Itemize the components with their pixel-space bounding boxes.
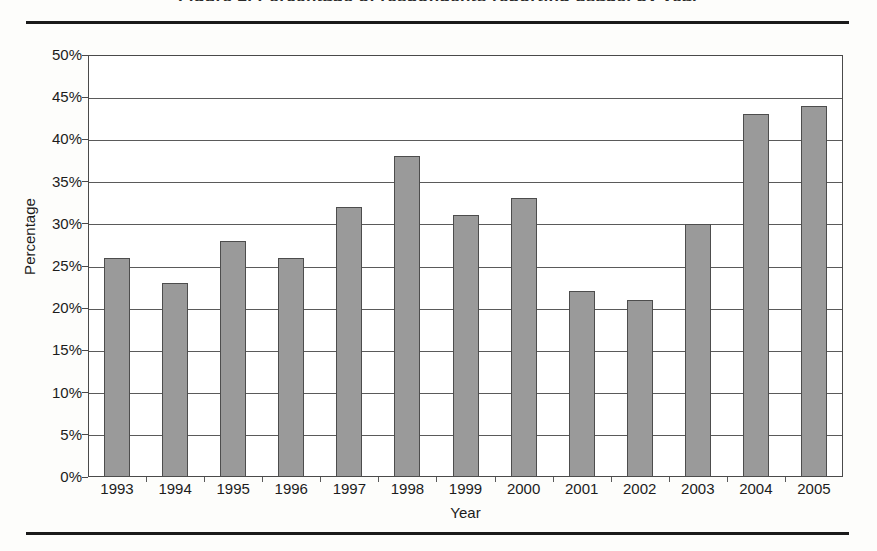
bar: [743, 114, 769, 477]
y-axis-tick-mark: [82, 350, 88, 351]
x-axis-tick-label: 1994: [145, 480, 205, 498]
bar: [394, 156, 420, 477]
x-axis-tick-mark: [378, 477, 379, 482]
x-axis-tick-mark: [553, 477, 554, 482]
bar: [685, 224, 711, 477]
x-axis-tick-mark: [727, 477, 728, 482]
x-axis-tick-mark: [320, 477, 321, 482]
y-axis-tick-label: 25%: [38, 258, 82, 273]
x-axis-tick-label: 1993: [87, 480, 147, 498]
x-axis-tick-mark: [495, 477, 496, 482]
bar: [627, 300, 653, 477]
x-axis-title: Year: [88, 504, 843, 521]
x-axis-tick-label: 1999: [436, 480, 496, 498]
x-axis-tick-mark: [146, 477, 147, 482]
bar: [104, 258, 130, 477]
y-axis-tick-mark: [82, 434, 88, 435]
x-axis-tick-label: 2002: [610, 480, 670, 498]
bar: [278, 258, 304, 477]
y-axis-tick-label: 35%: [38, 174, 82, 189]
bar-chart-figure: 0%5%10%15%20%25%30%35%40%45%50% Percenta…: [0, 28, 877, 528]
x-axis-tick-label: 2003: [668, 480, 728, 498]
clipped-page-heading: Figure 2. Percentage of respondents repo…: [0, 0, 877, 1]
y-axis-tick-mark: [82, 55, 88, 56]
y-axis-title: Percentage: [21, 182, 38, 292]
x-axis-tick-label: 1997: [319, 480, 379, 498]
bar: [569, 291, 595, 477]
x-axis-tick-label: 2004: [726, 480, 786, 498]
y-axis-tick-label: 30%: [38, 216, 82, 231]
x-axis-tick-mark: [262, 477, 263, 482]
y-axis-tick-mark: [82, 477, 88, 478]
x-axis: 1993199419951996199719981999200020012002…: [88, 480, 843, 502]
y-axis-tick-mark: [82, 266, 88, 267]
y-axis-tick-label: 45%: [38, 89, 82, 104]
y-axis-tick-label: 20%: [38, 300, 82, 315]
y-axis-tick-label: 40%: [38, 131, 82, 146]
y-axis-tick-label: 10%: [38, 385, 82, 400]
y-axis-tick-label: 0%: [38, 469, 82, 484]
y-axis-tick-mark: [82, 97, 88, 98]
y-axis-tick-mark: [82, 181, 88, 182]
x-axis-tick-label: 2001: [552, 480, 612, 498]
x-axis-tick-mark: [611, 477, 612, 482]
x-axis-tick-mark: [204, 477, 205, 482]
x-axis-tick-label: 1995: [203, 480, 263, 498]
x-axis-tick-mark: [669, 477, 670, 482]
bar: [162, 283, 188, 477]
x-axis-tick-label: 1998: [377, 480, 437, 498]
y-axis-tick-mark: [82, 308, 88, 309]
y-axis-tick-mark: [82, 392, 88, 393]
bars-layer: [88, 55, 843, 477]
x-axis-tick-label: 1996: [261, 480, 321, 498]
bottom-horizontal-rule: [26, 532, 849, 535]
bar: [511, 198, 537, 477]
x-axis-tick-label: 2000: [494, 480, 554, 498]
bar: [336, 207, 362, 477]
bar: [801, 106, 827, 477]
x-axis-tick-mark: [436, 477, 437, 482]
x-axis-tick-mark: [785, 477, 786, 482]
y-axis-tick-label: 50%: [38, 47, 82, 62]
x-axis-tick-label: 2005: [784, 480, 844, 498]
y-axis-tick-mark: [82, 223, 88, 224]
y-axis-tick-label: 5%: [38, 427, 82, 442]
y-axis-tick-label: 15%: [38, 342, 82, 357]
y-axis: 0%5%10%15%20%25%30%35%40%45%50%: [32, 55, 82, 477]
bar: [220, 241, 246, 477]
bar: [453, 215, 479, 477]
y-axis-tick-mark: [82, 139, 88, 140]
top-horizontal-rule: [26, 21, 849, 24]
